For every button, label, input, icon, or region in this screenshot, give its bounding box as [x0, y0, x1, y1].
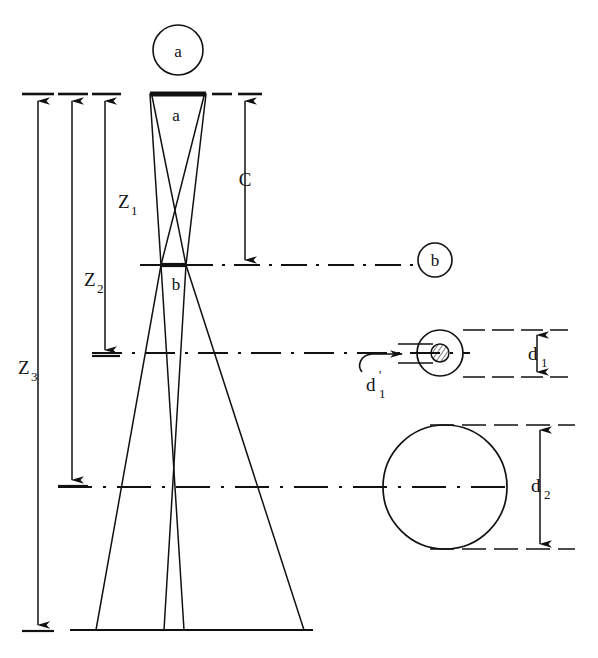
- dimension-d1-label: d: [528, 343, 538, 364]
- dimension-z1: Z 1: [105, 101, 138, 350]
- dimension-z3-label: Z: [18, 357, 30, 378]
- lower-reference-ticks: [22, 356, 120, 631]
- technical-diagram: a b: [0, 0, 598, 658]
- dimension-c-label: C: [239, 169, 252, 190]
- dimension-z2: Z 2: [72, 101, 104, 480]
- hatched-core-spot: [431, 344, 449, 362]
- dimension-d1: d 1: [463, 330, 568, 377]
- beam-ray-outline: [96, 94, 304, 630]
- dimension-d1-prime-tick: ': [379, 367, 381, 382]
- dimension-d1-subscript: 1: [541, 355, 548, 370]
- callout-circle-a: a: [153, 25, 203, 75]
- dimension-d1-prime-subscript: 1: [379, 386, 386, 401]
- axis-level-lines: [58, 265, 515, 487]
- dimension-z3: Z 3: [18, 101, 38, 625]
- dimension-z2-label: Z: [84, 269, 96, 290]
- dimension-d2-subscript: 2: [544, 487, 551, 502]
- callout-b-label: b: [431, 251, 440, 270]
- dimension-d1-prime: d ' 1: [360, 354, 402, 401]
- dimension-z1-label: Z: [118, 191, 130, 212]
- source-bar-label: a: [172, 106, 180, 125]
- dimension-d2-label: d: [531, 475, 541, 496]
- callout-circle-b: b: [418, 243, 452, 277]
- figure-canvas: a b: [0, 0, 598, 658]
- dimension-z2-subscript: 2: [97, 281, 104, 296]
- beam-waist-bar: b: [161, 265, 186, 294]
- dimension-z1-subscript: 1: [131, 203, 138, 218]
- waist-bar-label: b: [172, 275, 181, 294]
- dimension-z3-subscript: 3: [31, 369, 38, 384]
- dimension-d1-prime-label: d: [366, 374, 376, 395]
- dimension-c: C: [239, 101, 252, 260]
- callout-a-label: a: [174, 42, 182, 61]
- small-beam-spot: [398, 330, 463, 376]
